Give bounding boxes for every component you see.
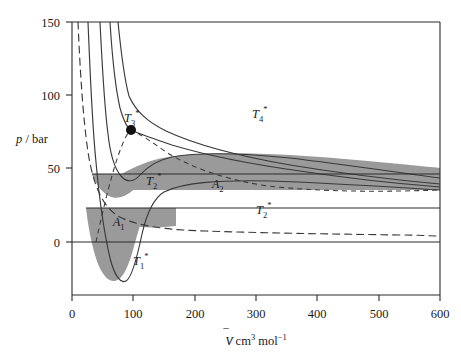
curve-label-t4: T4* (252, 104, 267, 124)
y-axis-title: p / bar (15, 132, 49, 146)
curve-label-t2-dashed: T2* (256, 200, 271, 220)
curve-label-t2b-sup: * (267, 200, 271, 210)
x-tick-label-200: 200 (186, 307, 205, 321)
curve-label-t3-sub: 3 (131, 118, 135, 128)
area-label-a1-sub: 1 (120, 222, 124, 232)
curve-label-t4-sub: 4 (259, 114, 264, 124)
x-tick-label-100: 100 (124, 307, 143, 321)
y-axis-title-var: p (15, 132, 22, 146)
x-axis-title-unit-exp: −1 (278, 332, 287, 342)
curve-label-t1-sup: * (144, 251, 148, 261)
curve-label-t2a-sub: 2 (153, 181, 157, 191)
x-axis-title: V̅ / cm3 mol−1 (223, 328, 287, 348)
x-tick-label-500: 500 (370, 307, 389, 321)
y-axis-title-rest: / bar (22, 132, 49, 146)
x-tick-label-0: 0 (69, 307, 75, 321)
curve-label-t4-sup: * (263, 104, 267, 114)
x-tick-label-400: 400 (308, 307, 327, 321)
y-tick-label-50: 50 (48, 162, 61, 176)
curve-label-t2b-sub: 2 (263, 210, 267, 220)
y-tick-label-100: 100 (41, 89, 60, 103)
vdw-isotherm-figure: 150 100 50 0 0 100 200 300 400 500 600 p… (0, 0, 461, 355)
y-tick-label-0: 0 (54, 236, 60, 250)
curve-label-t1-sub: 1 (140, 261, 144, 271)
area-label-a2-sub: 2 (219, 184, 223, 194)
chart-canvas: 150 100 50 0 0 100 200 300 400 500 600 p… (0, 0, 461, 355)
y-tick-label-150: 150 (41, 16, 60, 30)
x-tick-label-600: 600 (431, 307, 450, 321)
isotherm-t1 (88, 22, 440, 282)
y-axis-ticks (66, 22, 72, 242)
x-tick-label-300: 300 (247, 307, 266, 321)
x-axis-ticks (72, 295, 440, 301)
curve-label-t2a-sup: * (157, 171, 161, 181)
curve-label-t3-sup: * (135, 108, 139, 118)
x-axis-title-unit: mol (255, 334, 278, 348)
curve-label-t1: T1* (133, 251, 148, 271)
x-axis-title-rest: / cm (226, 334, 251, 348)
